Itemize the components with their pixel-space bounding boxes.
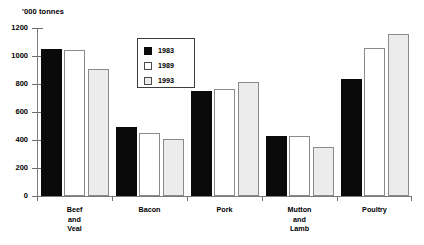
category-label-line: Mutton (262, 205, 337, 215)
bar (266, 136, 287, 195)
bar (116, 127, 137, 195)
bar (313, 147, 334, 195)
category-label-line: Lamb (262, 224, 337, 234)
y-axis-title: '000 tonnes (22, 7, 64, 16)
y-axis-tick-label: 800 (15, 79, 28, 88)
category-label-line: and (262, 215, 337, 225)
legend-entry: 1989 (144, 61, 174, 70)
legend-swatch (144, 62, 152, 70)
legend-entry: 1983 (144, 46, 174, 55)
bar (139, 133, 160, 196)
legend-swatch (144, 47, 152, 55)
bar-chart: '000 tonnes 020040060080010001200 Beefan… (0, 0, 424, 245)
category-label-line: Pork (187, 205, 262, 215)
bar (341, 79, 362, 196)
bar (88, 69, 109, 195)
legend-entry: 1993 (144, 76, 174, 85)
x-axis-tick (37, 196, 38, 201)
category-label-line: Poultry (337, 205, 412, 215)
legend-label: 1983 (158, 46, 174, 55)
legend-label: 1993 (158, 76, 174, 85)
bar (289, 136, 310, 195)
bar (191, 91, 212, 196)
legend: 198319891993 (137, 38, 195, 88)
category-label-line: Bacon (112, 205, 187, 215)
category-label-line: Veal (37, 224, 112, 234)
y-axis-tick: 1200 (32, 28, 43, 29)
category-label: Pork (187, 205, 262, 215)
bar (41, 49, 62, 196)
category-label-line: and (37, 215, 112, 225)
category-label: Bacon (112, 205, 187, 215)
x-axis-tick (112, 196, 113, 201)
x-axis-tick (187, 196, 188, 201)
legend-swatch (144, 77, 152, 85)
bar (163, 139, 184, 196)
y-axis-tick-label: 600 (15, 107, 28, 116)
y-axis-tick-label: 400 (15, 135, 28, 144)
plot-area: 020040060080010001200 (37, 26, 412, 198)
bar (388, 34, 409, 195)
bar (238, 82, 259, 195)
x-axis-line (37, 196, 412, 197)
bar (64, 50, 85, 195)
x-axis-tick (262, 196, 263, 201)
legend-label: 1989 (158, 61, 174, 70)
category-label-line: Beef (37, 205, 112, 215)
x-axis-tick (337, 196, 338, 201)
y-axis-tick-label: 0 (24, 191, 28, 200)
bar (364, 48, 385, 196)
y-axis-tick-label: 1000 (11, 51, 28, 60)
category-label: BeefandVeal (37, 205, 112, 234)
y-axis-tick-label: 1200 (11, 23, 28, 32)
category-label: Poultry (337, 205, 412, 215)
bar (214, 89, 235, 196)
x-axis-tick (411, 196, 412, 201)
category-label: MuttonandLamb (262, 205, 337, 234)
y-axis-tick-label: 200 (15, 163, 28, 172)
